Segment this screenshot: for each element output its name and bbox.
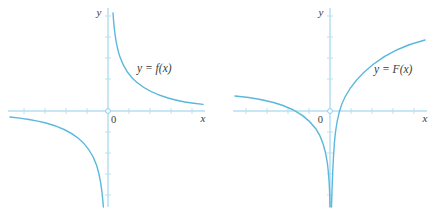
y-axis-label-left: y (96, 6, 102, 18)
panel-right-capital-f-of-x: y x 0 y = F(x) (219, 0, 438, 215)
origin-marker-left (106, 109, 111, 114)
origin-marker-right (328, 109, 333, 114)
curve-label-f-of-x: y = f(x) (136, 62, 172, 75)
axes-right (233, 8, 427, 207)
x-axis-label-right: x (422, 112, 428, 124)
curve-capital-f-branch-negative (235, 96, 330, 207)
curve-f-branch-positive (113, 13, 203, 104)
figure-container: y x 0 y = f(x) (0, 0, 438, 215)
origin-label-left: 0 (111, 114, 116, 125)
panel-left-f-of-x: y x 0 y = f(x) (0, 0, 219, 215)
y-axis-label-right: y (318, 6, 324, 18)
origin-label-right: 0 (318, 114, 323, 125)
curve-f-branch-negative (10, 117, 103, 207)
x-axis-label-left: x (200, 112, 206, 124)
curve-label-capital-f-of-x: y = F(x) (373, 63, 413, 76)
axes-left (8, 8, 205, 207)
